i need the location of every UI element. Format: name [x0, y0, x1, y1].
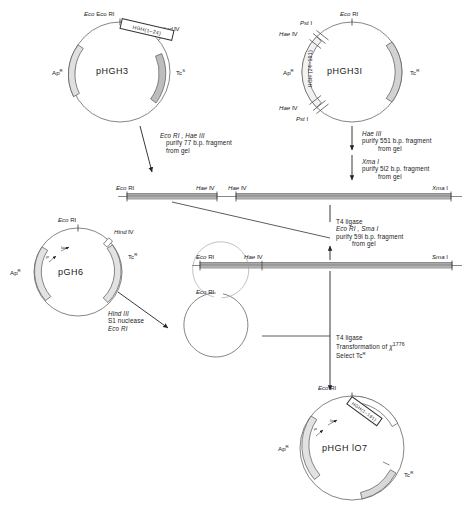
linearized-vector-graphic	[184, 242, 249, 357]
plasmid-phgh3i-graphic	[302, 19, 402, 181]
step-ligase-2: T4 ligase Transformation of χ1776 Select…	[336, 334, 405, 359]
step-left-digest: Eco RI , Hae III purify 77 b.p. fragment…	[160, 132, 232, 154]
step-right-digest-2: Xma I purify 5l2 b.p. fragment from gel	[362, 158, 429, 180]
pgh6-ap-marker: ApR	[10, 268, 21, 276]
plasmid-pgh6-graphic	[34, 225, 168, 329]
frag512-left-label: Hae Ⅳ	[228, 184, 247, 191]
pgh6-site-ecori: Eco RI	[58, 216, 76, 223]
phgh3i-site-haeiii-top: Hae Ⅳ	[279, 30, 298, 37]
frag591-right-label: Sma I	[432, 253, 448, 260]
phgh3-tc-marker: TcS	[176, 68, 185, 76]
pgh6-name: pGH6	[58, 267, 84, 278]
frag591-left-label: Eco RI	[196, 253, 214, 260]
phgh3i-site-ecori: Eco RI	[340, 10, 358, 17]
frag512-right-label: Xma I	[432, 184, 448, 191]
fragment-bars-row2	[192, 246, 462, 390]
open-circle-site-ecori: Eco RI	[196, 288, 214, 295]
phgh3-name: pHGH3	[96, 66, 129, 77]
phgh107-promoter-lac: lac	[330, 419, 335, 424]
diagram-vectors	[0, 0, 470, 517]
step-ligase-1: T4 ligase Eco RI , Sma I purify 59l b.p.…	[336, 218, 403, 248]
phgh3i-insert-label: HGH (24–191)	[307, 50, 317, 87]
step-nuclease: Hind III S1 nuclease Eco RI	[108, 310, 144, 332]
phgh107-name: pHGH lO7	[322, 443, 368, 454]
phgh3i-site-haeiii-bottom: Hae Ⅳ	[279, 104, 298, 111]
phgh3i-site-psti-top: Pst I	[300, 19, 312, 26]
fragment-bars-row1	[118, 192, 462, 239]
figure-canvas: Eco Eco RI Hind Ⅳ HGH(1–24) pHGH3 ApR Tc…	[0, 0, 470, 517]
pgh6-site-hindiii: Hind Ⅳ	[114, 228, 134, 235]
phgh3i-site-psti-bottom: Pst I	[296, 115, 308, 122]
phgh107-site-ecori: Eco RI	[318, 384, 336, 391]
step-right-digest-1: Hae III purify 551 b.p. fragment from ge…	[362, 130, 432, 152]
phgh3i-ap-marker: ApR	[283, 68, 294, 76]
phgh107-ap-marker: ApR	[278, 444, 289, 452]
frag77-right-label: Hae Ⅳ	[196, 184, 215, 191]
pgh6-promoter-lac: lac	[61, 246, 66, 251]
phgh107-promoter-p: P	[314, 428, 317, 433]
pgh6-tc-marker: TcR	[128, 252, 137, 260]
phgh107-tc-marker: TcR	[404, 470, 413, 478]
pgh6-promoter-p: P	[46, 256, 49, 261]
phgh3i-tc-marker: TcR	[410, 68, 419, 76]
phgh3-ap-marker: ApR	[52, 68, 63, 76]
phgh3i-name: pHGH3I	[327, 66, 363, 77]
frag77-left-label: Eco RI	[116, 184, 134, 191]
phgh3-site-ecori: Eco Eco RI	[84, 10, 115, 17]
plasmid-phgh3-graphic	[68, 19, 170, 173]
frag591-mid-label: Hae Ⅳ	[244, 253, 263, 260]
